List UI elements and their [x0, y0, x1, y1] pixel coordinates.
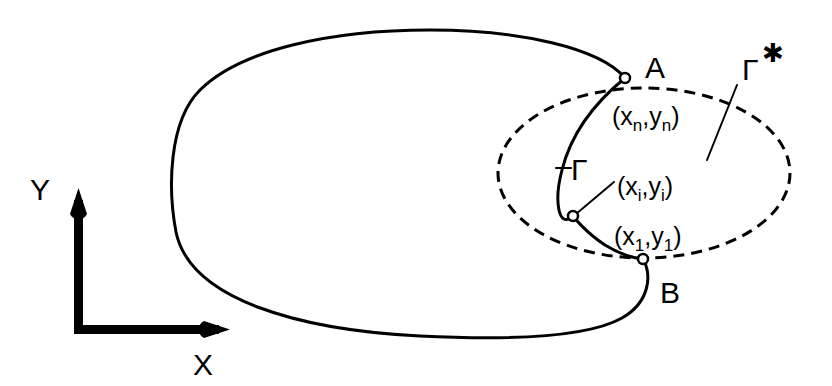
- curve-label-gamma-star: Γ: [742, 53, 759, 86]
- coord-xn-close: ): [671, 102, 679, 130]
- svg-text:(xi,yi): (xi,yi): [617, 172, 673, 205]
- curve-label-gamma-star-group: Γ ✱: [742, 38, 784, 86]
- node-marker-b: [638, 254, 648, 264]
- curve-label-star-icon: ✱: [762, 38, 784, 68]
- coord-x1-open: (x: [614, 222, 635, 250]
- coord-xn-comma: ,y: [642, 102, 662, 130]
- coord-label-xi-yi: (xi,yi): [617, 172, 673, 205]
- node-marker-i: [568, 211, 578, 221]
- coord-xi-comma: ,y: [642, 172, 662, 200]
- coord-label-xn-yn: (xn,yn): [612, 102, 680, 135]
- x-axis-line: [74, 325, 219, 334]
- y-axis-arrowhead-icon: [70, 188, 87, 219]
- coord-xn-sub: n: [633, 116, 642, 135]
- y-axis-label: Y: [30, 173, 50, 206]
- coord-y1-sub: 1: [664, 236, 673, 255]
- curve-label-gamma: Γ: [571, 153, 588, 186]
- coord-xi-open: (x: [617, 172, 638, 200]
- point-label-b: B: [660, 276, 680, 309]
- coord-yn-sub: n: [662, 116, 671, 135]
- y-axis-line: [74, 200, 83, 331]
- node-marker-a: [620, 73, 630, 83]
- coord-label-x1-y1: (x1,y1): [614, 222, 682, 255]
- figure-container: Y X A B Γ Γ ✱ (xn,yn) (xi,yi) (x1,y1): [0, 0, 832, 386]
- xi-leader-line: [576, 182, 614, 214]
- coordinate-axes: [70, 188, 230, 338]
- coord-x1-close: ): [673, 222, 681, 250]
- point-label-a: A: [645, 51, 665, 84]
- coord-xi-close: ): [665, 172, 673, 200]
- coord-x1-sub: 1: [635, 236, 644, 255]
- coord-xn-open: (x: [612, 102, 633, 130]
- svg-text:(xn,yn): (xn,yn): [612, 102, 680, 135]
- coord-x1-comma: ,y: [644, 222, 664, 250]
- x-axis-label: X: [193, 348, 213, 381]
- x-axis-arrowhead-icon: [199, 321, 230, 338]
- svg-text:(x1,y1): (x1,y1): [614, 222, 682, 255]
- figure-canvas: Y X A B Γ Γ ✱ (xn,yn) (xi,yi) (x1,y1): [0, 0, 832, 386]
